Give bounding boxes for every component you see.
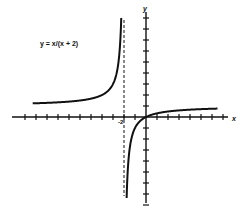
asymptote-tick-label: -2 xyxy=(118,119,124,125)
curve-right-branch xyxy=(126,109,218,214)
y-axis-label: y xyxy=(142,5,148,13)
function-graph: y = x/(x + 2) y x -2 xyxy=(0,0,243,214)
x-axis-label: x xyxy=(231,115,237,122)
curve-left-branch xyxy=(33,0,123,103)
equation-label: y = x/(x + 2) xyxy=(40,40,78,48)
